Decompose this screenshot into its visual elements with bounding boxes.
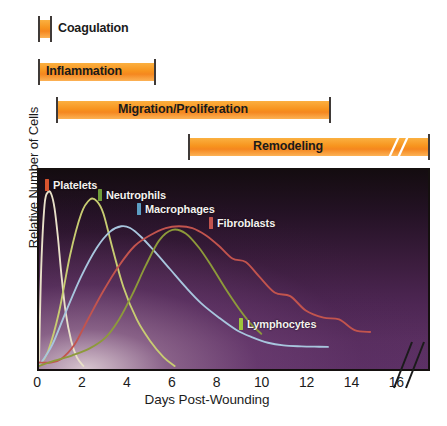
legend-item-neutrophils: Neutrophils xyxy=(98,189,166,201)
wound-healing-figure: CoagulationInflammationMigration/Prolife… xyxy=(0,0,447,426)
phase-label-coagulation: Coagulation xyxy=(58,19,129,38)
legend-swatch-icon-lymphocytes xyxy=(239,318,243,330)
legend-swatch-icon-platelets xyxy=(45,179,49,191)
phase-cap-start-coagulation xyxy=(38,16,40,42)
curve-fibroblasts xyxy=(39,226,370,362)
x-tick-14: 14 xyxy=(344,374,359,390)
legend-label-fibroblasts: Fibroblasts xyxy=(217,217,275,229)
x-tick-12: 12 xyxy=(299,374,314,390)
legend-item-platelets: Platelets xyxy=(45,179,97,191)
curve-neutrophils xyxy=(39,198,175,366)
axis-break-icon xyxy=(386,340,430,390)
x-tick-10: 10 xyxy=(254,374,269,390)
x-tick-6: 6 xyxy=(168,374,176,390)
phase-cap-end-remodeling xyxy=(428,134,430,160)
legend-item-lymphocytes: Lymphocytes xyxy=(239,318,316,330)
phase-bar-break-icon xyxy=(384,132,414,162)
x-tick-8: 8 xyxy=(213,374,221,390)
phase-coagulation xyxy=(38,16,52,42)
curve-macrophages xyxy=(39,226,328,366)
phase-cap-end-coagulation xyxy=(50,16,52,42)
legend-swatch-icon-macrophages xyxy=(137,203,141,215)
legend-swatch-icon-neutrophils xyxy=(98,189,102,201)
phase-label-migration-proliferation: Migration/Proliferation xyxy=(118,100,248,119)
phase-cap-start-migration-proliferation xyxy=(56,97,58,123)
phase-label-remodeling: Remodeling xyxy=(253,137,323,156)
x-axis-ticks: 0246810121416 xyxy=(0,374,447,394)
x-tick-0: 0 xyxy=(33,374,41,390)
y-axis-title: Relative Number of Cells xyxy=(26,83,41,273)
phase-cap-start-inflammation xyxy=(38,59,40,85)
legend-label-lymphocytes: Lymphocytes xyxy=(247,318,316,330)
legend-label-platelets: Platelets xyxy=(53,179,97,191)
phase-cap-end-inflammation xyxy=(154,59,156,85)
legend-item-fibroblasts: Fibroblasts xyxy=(209,217,275,229)
plot-area: PlateletsNeutrophilsMacrophagesFibroblas… xyxy=(37,168,430,371)
legend-swatch-icon-fibroblasts xyxy=(209,217,213,229)
phase-cap-end-migration-proliferation xyxy=(329,97,331,123)
legend-label-macrophages: Macrophages xyxy=(145,203,215,215)
legend-item-macrophages: Macrophages xyxy=(137,203,215,215)
x-axis-title: Days Post-Wounding xyxy=(37,392,377,407)
phase-cap-start-remodeling xyxy=(188,134,190,160)
legend-label-neutrophils: Neutrophils xyxy=(106,189,166,201)
x-tick-4: 4 xyxy=(123,374,131,390)
x-tick-2: 2 xyxy=(78,374,86,390)
phase-label-inflammation: Inflammation xyxy=(46,62,122,81)
